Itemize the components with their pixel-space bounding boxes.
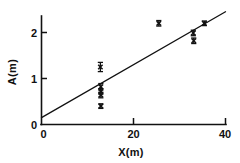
- data-point: [156, 21, 161, 27]
- fit-line-group: [42, 12, 226, 118]
- scatter-plot-figure: 2 1 0 0 20 40 X(m) A(m): [0, 0, 240, 163]
- x-tick-label-0: 0: [40, 128, 46, 140]
- y-tick-label-2: 2: [31, 27, 37, 39]
- y-axis-title: A(m): [6, 59, 18, 85]
- x-axis-title: X(m): [118, 146, 144, 158]
- data-point: [98, 104, 103, 109]
- data-points-layer: [98, 21, 207, 109]
- axes-group: [41, 16, 226, 125]
- x-tick-label-20: 20: [127, 128, 139, 140]
- y-axis-ticks: [42, 33, 48, 79]
- data-point: [191, 30, 196, 36]
- y-tick-labels: 2 1 0: [31, 27, 37, 131]
- data-point: [191, 38, 196, 44]
- x-tick-labels: 0 20 40: [40, 128, 231, 140]
- plot-canvas: 2 1 0 0 20 40 X(m) A(m): [0, 0, 240, 163]
- y-tick-label-1: 1: [31, 73, 37, 85]
- regression-fit-line: [42, 12, 226, 118]
- data-point: [98, 62, 103, 71]
- x-axis-ticks: [134, 118, 226, 125]
- y-tick-label-0: 0: [31, 119, 37, 131]
- x-tick-label-40: 40: [219, 128, 231, 140]
- data-point: [98, 92, 103, 98]
